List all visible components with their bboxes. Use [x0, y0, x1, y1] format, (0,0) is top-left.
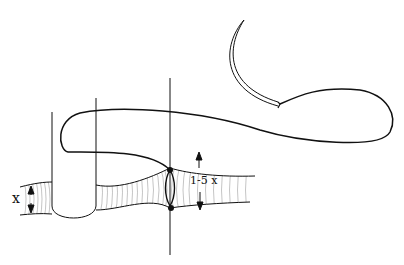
- vessel-right-segment: [172, 165, 249, 215]
- illustration: x 1-5 x: [0, 0, 404, 265]
- suture-point-bottom: [168, 205, 174, 211]
- curved-needle: [230, 20, 280, 108]
- label-left-diameter: x: [12, 190, 20, 206]
- vessel-middle-segment: [100, 165, 167, 215]
- suture-thread: [61, 89, 393, 170]
- label-right-diameter: 1-5 x: [190, 174, 218, 187]
- anastomosis-diagram: x 1-5 x: [0, 0, 404, 265]
- diameter-arrows-left: [28, 186, 34, 213]
